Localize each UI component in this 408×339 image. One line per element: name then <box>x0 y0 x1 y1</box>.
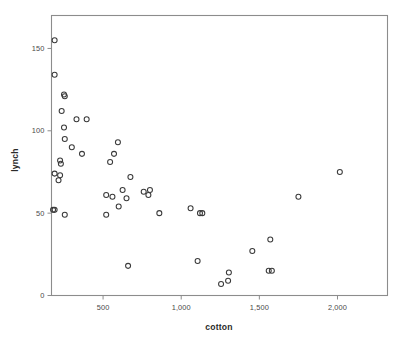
plot-frame <box>52 16 388 296</box>
y-tick-label: 100 <box>32 126 45 135</box>
data-point-marker <box>74 117 79 122</box>
x-tick-label: 2,000 <box>328 303 347 312</box>
data-point-marker <box>56 178 61 183</box>
data-point-marker <box>195 258 200 263</box>
data-point-marker <box>250 249 255 254</box>
data-point-marker <box>188 206 193 211</box>
x-tick-label: 500 <box>97 303 110 312</box>
data-point-marker <box>52 38 57 43</box>
y-tick-label: 50 <box>36 209 44 218</box>
data-point-marker <box>79 151 84 156</box>
data-point-marker <box>128 174 133 179</box>
x-axis-title: cotton <box>205 322 232 332</box>
x-axis-ticks: 5001,0001,5002,000 <box>97 296 347 312</box>
data-point-marker <box>69 145 74 150</box>
x-tick-label: 1,500 <box>250 303 269 312</box>
y-axis-title: lynch <box>10 148 20 171</box>
scatter-plot-figure: 5001,0001,5002,000 050100150 cotton lync… <box>0 0 408 339</box>
data-point-marker <box>58 173 63 178</box>
data-point-marker <box>62 137 67 142</box>
data-point-marker <box>120 188 125 193</box>
data-point-marker <box>296 194 301 199</box>
y-tick-label: 150 <box>32 44 45 53</box>
data-point-marker <box>62 212 67 217</box>
data-point-marker <box>62 125 67 130</box>
data-point-marker <box>141 189 146 194</box>
plot-canvas: 5001,0001,5002,000 050100150 cotton lync… <box>0 0 408 339</box>
data-point-marker <box>59 109 64 114</box>
data-point-marker <box>124 196 129 201</box>
data-point-marker <box>52 72 57 77</box>
y-axis-ticks: 050100150 <box>32 44 52 300</box>
data-point-marker <box>269 268 274 273</box>
data-point-marker <box>112 151 117 156</box>
data-points <box>51 38 343 287</box>
data-point-marker <box>108 160 113 165</box>
data-point-marker <box>110 194 115 199</box>
data-point-marker <box>157 211 162 216</box>
data-point-marker <box>104 193 109 198</box>
data-point-marker <box>126 263 131 268</box>
data-point-marker <box>146 193 151 198</box>
data-point-marker <box>226 270 231 275</box>
x-tick-label: 1,000 <box>172 303 191 312</box>
data-point-marker <box>104 212 109 217</box>
data-point-marker <box>226 278 231 283</box>
data-point-marker <box>116 204 121 209</box>
data-point-marker <box>84 117 89 122</box>
data-point-marker <box>52 171 57 176</box>
data-point-marker <box>58 161 63 166</box>
data-point-marker <box>147 188 152 193</box>
data-point-marker <box>115 140 120 145</box>
data-point-marker <box>337 169 342 174</box>
data-point-marker <box>268 237 273 242</box>
y-tick-label: 0 <box>40 291 44 300</box>
data-point-marker <box>219 281 224 286</box>
